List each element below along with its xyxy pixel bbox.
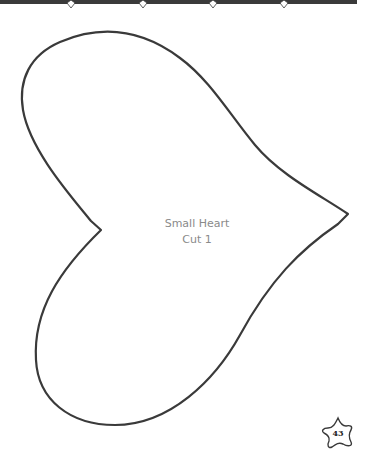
template-label-title: Small Heart <box>13 217 368 230</box>
template-label-cut: Cut 1 <box>13 233 368 246</box>
page-number: 43 <box>318 428 358 438</box>
